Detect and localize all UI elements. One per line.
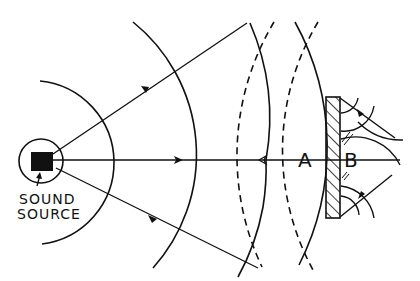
ray-upper [53, 23, 247, 154]
incident-wavefronts [40, 22, 327, 277]
sound-source-group [19, 139, 63, 186]
reflected-wavefronts [237, 22, 318, 270]
sound-diagram: SOUND SOURCE A B [0, 0, 420, 281]
barrier [326, 97, 340, 218]
rays [53, 23, 400, 268]
wavefront-2 [133, 22, 196, 268]
source-pointer-arrowhead [36, 172, 42, 179]
label-b: B [344, 148, 358, 172]
label-source: SOURCE [17, 206, 81, 222]
wavefront-3 [238, 23, 270, 277]
ray-lower [56, 168, 258, 268]
label-sound: SOUND [19, 191, 75, 207]
source-square [31, 152, 53, 171]
label-a: A [298, 148, 312, 172]
ray-arrowheads [141, 86, 266, 223]
barrier-wall [326, 97, 340, 218]
